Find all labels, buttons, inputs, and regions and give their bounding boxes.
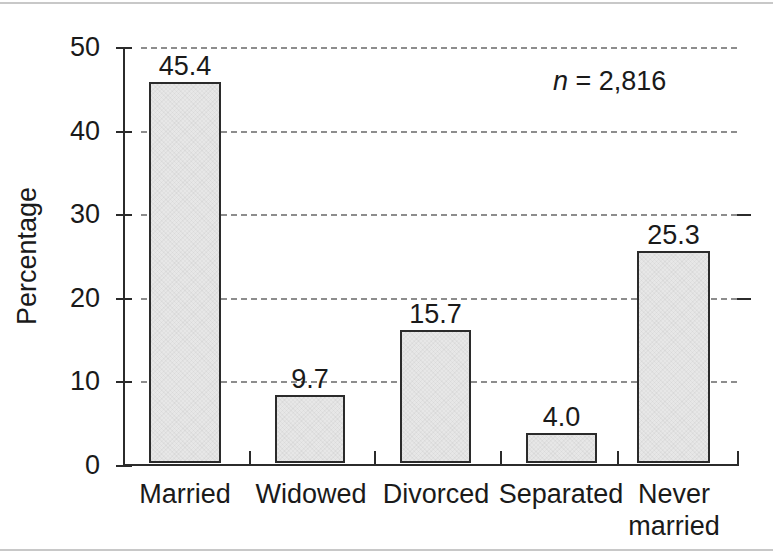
right-tick-30 [737, 214, 751, 216]
gridline-50 [141, 47, 737, 49]
gridline-30 [141, 214, 737, 216]
x-category-label-never-married: Never married [628, 479, 720, 543]
y-tick-30: 30 [116, 214, 132, 216]
plot-area: 50 40 30 20 10 0 45.4 9.7 15.7 4.0 [123, 47, 737, 465]
bar-divorced[interactable]: 15.7 [400, 330, 471, 463]
y-axis-title: Percentage [14, 187, 41, 325]
y-tick-20: 20 [116, 298, 132, 300]
bar-value-separated: 4.0 [543, 404, 581, 431]
x-axis-line [123, 464, 739, 466]
y-tick-label-50: 50 [70, 34, 100, 61]
bar-value-married: 45.4 [159, 53, 212, 80]
y-tick-40: 40 [116, 131, 132, 133]
bar-value-never-married: 25.3 [647, 222, 700, 249]
y-tick-label-30: 30 [70, 201, 100, 228]
x-category-label-divorced: Divorced [383, 479, 490, 511]
y-tick-10: 10 [116, 381, 132, 383]
x-category-label-married: Married [139, 479, 231, 511]
x-separator-tick-4 [617, 451, 619, 466]
y-tick-label-10: 10 [70, 368, 100, 395]
x-axis-end-tick [737, 451, 739, 466]
bar-widowed[interactable]: 9.7 [275, 395, 345, 463]
x-separator-tick-2 [374, 451, 376, 466]
y-tick-label-0: 0 [85, 452, 100, 479]
x-category-label-separated: Separated [499, 479, 624, 511]
y-tick-50: 50 [116, 47, 132, 49]
gridline-40 [141, 131, 737, 133]
right-tick-20 [737, 298, 751, 300]
y-tick-label-20: 20 [70, 284, 100, 311]
bar-value-widowed: 9.7 [291, 366, 329, 393]
y-tick-0: 0 [116, 465, 132, 467]
bar-married[interactable]: 45.4 [149, 82, 221, 463]
y-tick-label-40: 40 [70, 117, 100, 144]
x-category-label-widowed: Widowed [255, 479, 366, 511]
x-separator-tick-3 [500, 451, 502, 466]
bar-separated[interactable]: 4.0 [526, 433, 597, 463]
top-border-rule [0, 2, 773, 4]
bottom-border-rule [0, 549, 773, 551]
bar-chart-figure: Percentage n = 2,816 50 40 30 20 [0, 0, 773, 559]
bar-value-divorced: 15.7 [409, 301, 462, 328]
x-separator-tick-1 [249, 451, 251, 466]
bar-never-married[interactable]: 25.3 [637, 251, 710, 463]
y-axis-line [123, 47, 125, 466]
